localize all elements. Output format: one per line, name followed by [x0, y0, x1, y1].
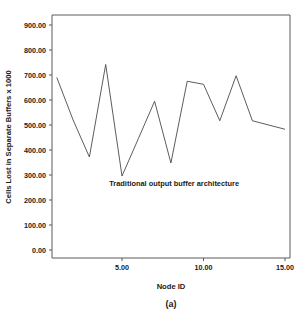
- y-tick-label: 700.00: [24, 71, 46, 80]
- x-tick-label: 10.00: [195, 263, 213, 272]
- y-tick-label: 500.00: [24, 121, 46, 130]
- x-tick-label: 5.00: [115, 263, 129, 272]
- y-tick-label: 900.00: [24, 21, 46, 30]
- x-tick-label: 15.00: [276, 263, 294, 272]
- figure-caption: (a): [166, 299, 177, 309]
- series-annotation-label: Traditional output buffer architecture: [109, 179, 239, 188]
- y-axis-title: Cells Lost in Separate Buffers x 1000: [4, 70, 13, 203]
- y-tick-label: 300.00: [24, 171, 46, 180]
- y-tick-label: 100.00: [24, 221, 46, 230]
- chart-background: [0, 0, 308, 318]
- y-tick-label: 600.00: [24, 96, 46, 105]
- line-chart: 0.00100.00200.00300.00400.00500.00600.00…: [0, 0, 308, 318]
- figure-container: 0.00100.00200.00300.00400.00500.00600.00…: [0, 0, 308, 318]
- y-tick-label: 0.00: [32, 246, 46, 255]
- x-axis-title: Node ID: [157, 282, 186, 291]
- y-tick-label: 200.00: [24, 196, 46, 205]
- y-tick-label: 800.00: [24, 46, 46, 55]
- y-tick-label: 400.00: [24, 146, 46, 155]
